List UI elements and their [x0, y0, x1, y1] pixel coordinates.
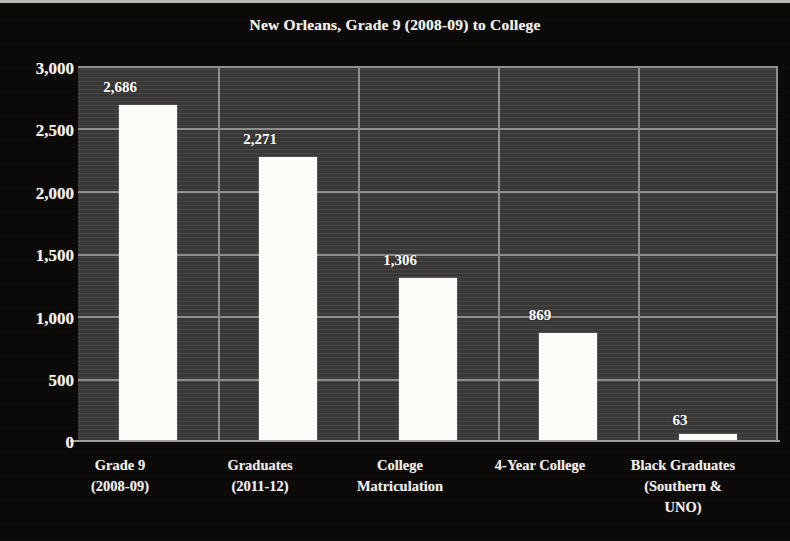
x-axis-tick-line: Black Graduates — [608, 455, 758, 476]
x-axis-tick-graduates: Graduates (2011-12) — [188, 455, 332, 497]
y-axis-tick-label: 500 — [49, 371, 75, 391]
x-axis-tick-4-year-college: 4-Year College — [468, 455, 612, 476]
bar-value-label: 1,306 — [369, 252, 431, 269]
x-axis-tick-black-graduates: Black Graduates (Southern & UNO) — [608, 455, 758, 518]
gridline-vertical — [498, 66, 500, 442]
x-axis-tick-line: Graduates — [188, 455, 332, 476]
gridline-horizontal — [78, 128, 778, 130]
y-axis-tick-label: 1,500 — [36, 246, 74, 266]
x-axis-tick-college-matriculation: College Matriculation — [328, 455, 472, 497]
y-axis-tick-label: 3,000 — [36, 59, 74, 79]
bar-college-matriculation — [399, 278, 457, 442]
x-axis-tick-line: UNO) — [608, 497, 758, 518]
bar-value-label: 2,686 — [89, 79, 151, 96]
x-axis-tick-line: (2008-09) — [48, 476, 192, 497]
gridline-vertical — [358, 66, 360, 442]
gridline-horizontal — [78, 191, 778, 193]
y-axis-tick-label: 0 — [66, 433, 75, 453]
y-axis-tick-label: 2,500 — [36, 121, 74, 141]
gridline-horizontal — [78, 66, 778, 68]
x-axis-line — [70, 440, 780, 442]
bar-value-label: 869 — [509, 307, 571, 324]
x-axis-tick-line: 4-Year College — [468, 455, 612, 476]
y-axis-tick-label: 1,000 — [36, 309, 74, 329]
x-axis-tick-line: Matriculation — [328, 476, 472, 497]
bar-value-label: 2,271 — [229, 131, 291, 148]
gridline-vertical — [638, 66, 640, 442]
bar-4-year-college — [539, 333, 597, 442]
x-axis-tick-line: (2011-12) — [188, 476, 332, 497]
y-axis-tick-label: 2,000 — [36, 184, 74, 204]
gridline-vertical — [218, 66, 220, 442]
bar-value-label: 63 — [649, 412, 711, 429]
chart-title: New Orleans, Grade 9 (2008-09) to Colleg… — [0, 16, 790, 34]
x-axis-tick-grade-9: Grade 9 (2008-09) — [48, 455, 192, 497]
gridline-vertical — [776, 66, 778, 442]
bar-grade-9 — [119, 105, 177, 442]
x-axis-tick-line: College — [328, 455, 472, 476]
x-axis-tick-line: Grade 9 — [48, 455, 192, 476]
x-axis-tick-line: (Southern & — [608, 476, 758, 497]
bar-graduates — [259, 157, 317, 442]
chart-figure: New Orleans, Grade 9 (2008-09) to Colleg… — [0, 0, 790, 541]
